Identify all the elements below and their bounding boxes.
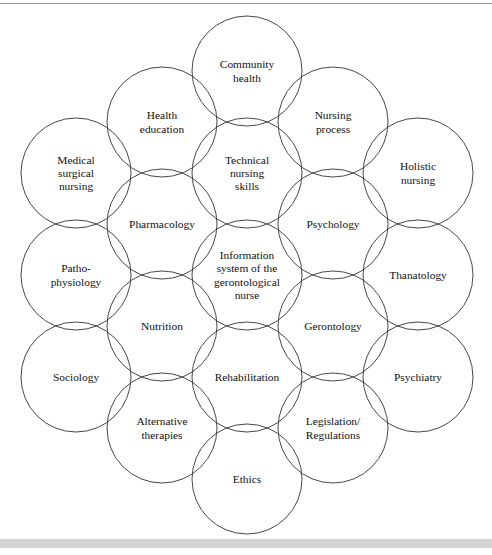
bottom-gray-band (0, 539, 492, 548)
venn-label-line: nursing (401, 174, 435, 186)
venn-label-line: Ethics (233, 473, 262, 485)
venn-label-line: physiology (51, 276, 102, 288)
venn-label-line: process (316, 123, 351, 135)
venn-label-line: surgical (58, 167, 94, 179)
venn-label-holistic-nursing: Holisticnursing (400, 160, 436, 185)
venn-label-line: skills (235, 180, 260, 192)
venn-label-psychology: Psychology (306, 218, 359, 230)
venn-label-psychiatry: Psychiatry (394, 371, 442, 383)
venn-label-line: Patho- (61, 262, 91, 274)
venn-label-line: Health (147, 109, 178, 121)
venn-label-line: Pharmacology (129, 218, 195, 230)
venn-label-line: nurse (235, 289, 260, 301)
venn-label-pharmacology: Pharmacology (129, 218, 195, 230)
venn-label-line: Community (220, 58, 275, 70)
venn-label-line: nursing (230, 167, 264, 179)
venn-label-ethics: Ethics (233, 473, 262, 485)
venn-label-information-system: Informationsystem of thegerontologicalnu… (214, 249, 280, 301)
venn-label-line: Holistic (400, 160, 436, 172)
venn-label-line: Psychiatry (394, 371, 442, 383)
venn-label-line: Technical (225, 154, 269, 166)
venn-label-line: Legislation/ (306, 415, 361, 427)
venn-label-nursing-process: Nursingprocess (315, 109, 352, 134)
venn-label-line: Regulations (306, 429, 361, 441)
venn-label-technical-nursing-skills: Technicalnursingskills (225, 154, 269, 192)
venn-label-line: Medical (57, 154, 94, 166)
venn-label-thanatology: Thanatology (389, 269, 447, 281)
venn-label-line: Alternative (136, 415, 187, 427)
gerontological-nurse-venn-diagram: MedicalsurgicalnursingPatho-physiologySo… (0, 0, 492, 545)
venn-label-line: therapies (141, 429, 183, 441)
venn-label-line: health (233, 72, 261, 84)
venn-label-gerontology: Gerontology (304, 320, 362, 332)
venn-label-nutrition: Nutrition (141, 320, 183, 332)
venn-label-community-health: Communityhealth (220, 58, 275, 83)
venn-label-line: Gerontology (304, 320, 362, 332)
venn-label-line: Nutrition (141, 320, 183, 332)
figure-page: MedicalsurgicalnursingPatho-physiologySo… (0, 0, 492, 555)
venn-label-line: Information (220, 249, 275, 261)
venn-label-line: Thanatology (389, 269, 447, 281)
venn-label-patho-physiology: Patho-physiology (51, 262, 102, 287)
venn-label-sociology: Sociology (53, 371, 100, 383)
venn-label-line: gerontological (214, 276, 280, 288)
venn-label-line: Rehabilitation (215, 371, 280, 383)
venn-label-line: Sociology (53, 371, 100, 383)
venn-label-rehabilitation: Rehabilitation (215, 371, 280, 383)
venn-label-line: Psychology (306, 218, 359, 230)
venn-label-medical-surgical-nursing: Medicalsurgicalnursing (57, 154, 94, 192)
venn-label-health-education: Healtheducation (140, 109, 185, 134)
venn-label-line: education (140, 123, 185, 135)
venn-label-alternative-therapies: Alternativetherapies (136, 415, 187, 440)
venn-label-line: Nursing (315, 109, 352, 121)
venn-label-line: system of the (217, 262, 278, 274)
venn-label-legislation-regulations: Legislation/Regulations (306, 415, 361, 440)
venn-label-line: nursing (59, 180, 93, 192)
